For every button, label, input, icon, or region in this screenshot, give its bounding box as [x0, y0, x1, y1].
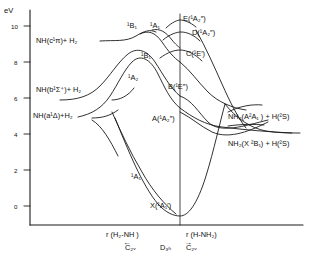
state-label-C: C(¹E′)	[186, 50, 205, 57]
right-symmetry-arrow-icon: →	[184, 238, 192, 247]
curve-label-1A1-upper: ¹A₁	[150, 22, 160, 29]
y-tick-label-2: 2	[14, 167, 17, 174]
curve-b1sigma-connector	[112, 88, 134, 100]
left-symmetry-arrow-icon: ←	[123, 238, 131, 247]
curve-a1delta-connector-lower	[92, 120, 118, 156]
asymptote-label-nh-c1pi: NH(c¹π)+ H₂	[36, 37, 77, 44]
state-label-E: E(¹A₂″)	[183, 15, 206, 22]
curve-label-1A2: ¹A₂	[128, 74, 138, 81]
product-label-nh2-A2A1: NH₂(A²A₁ ) + H(²S)	[228, 113, 289, 120]
asymptote-label-nh-b1sigma: NH(b¹Σ⁺)+ H₂	[36, 86, 81, 93]
state-label-A: A(¹A₂″)	[152, 115, 175, 122]
state-label-D: D(¹A₂″)	[192, 29, 215, 36]
y-tick-label-10: 10	[11, 23, 18, 30]
y-tick-label-6: 6	[14, 95, 17, 102]
y-tick-label-4: 4	[14, 131, 17, 138]
y-tick-label-8: 8	[14, 59, 17, 66]
y-tick-label-0: 0	[14, 203, 17, 210]
state-label-X: X(¹A₁′)	[150, 202, 171, 209]
product-label-nh2-X2B1: NH₂(X ²B₁) + H(²S)	[228, 140, 289, 147]
asymptote-label-nh-a1delta: NH(a¹Δ)+H₂	[33, 112, 73, 119]
curve-label-1B1-upper: ¹B₁	[127, 22, 137, 29]
state-label-B: B(¹E″)	[168, 83, 188, 90]
energy-correlation-diagram: eV 0 2 4 6 8 10 NH(c¹π)+ H₂ NH(b¹Σ⁺)+ H₂…	[0, 0, 312, 261]
curve-C-right-branch	[180, 62, 246, 110]
curve-label-1A1-ground: ¹A₁	[131, 173, 141, 180]
curve-1A1-repulsive-wall	[112, 112, 176, 214]
y-axis-label: eV	[4, 6, 13, 15]
curve-label-1B1-lower: ¹B₁	[141, 52, 151, 59]
x-axis-center-symmetry: D₃ₕ	[160, 244, 171, 251]
connector-to-NH2-A	[228, 105, 262, 112]
